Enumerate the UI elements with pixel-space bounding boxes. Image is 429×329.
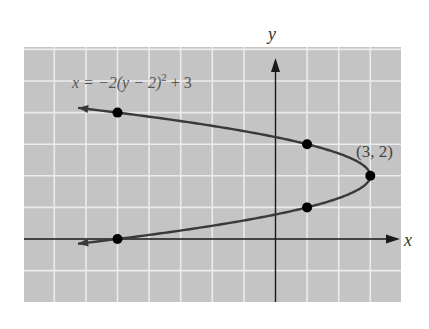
- data-point: [365, 171, 375, 181]
- data-point: [302, 202, 312, 212]
- y-axis-label: y: [266, 24, 276, 44]
- data-point: [113, 234, 123, 244]
- parabola-graph: x = −2(y − 2)2 + 3 (3, 2) y x: [0, 0, 429, 329]
- x-axis-label: x: [403, 230, 412, 250]
- data-point: [113, 108, 123, 118]
- equation-label: x = −2(y − 2)2 + 3: [71, 71, 192, 92]
- vertex-label: (3, 2): [356, 142, 393, 161]
- data-point: [302, 139, 312, 149]
